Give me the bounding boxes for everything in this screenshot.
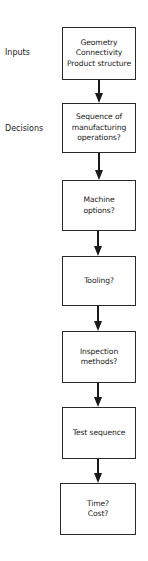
step-box-tooling: Tooling? bbox=[62, 256, 136, 306]
label-decisions: Decisions bbox=[5, 124, 43, 134]
step-text: Geometry Connectivity Product structure bbox=[67, 38, 131, 70]
arrow-down-icon bbox=[94, 383, 102, 407]
step-box-sequence: Sequence of manufacturing operations? bbox=[62, 103, 136, 153]
step-text: Sequence of manufacturing operations? bbox=[72, 112, 127, 144]
arrow-down-icon bbox=[94, 459, 102, 483]
step-box-time-cost: Time? Cost? bbox=[60, 483, 136, 535]
arrow-down-icon bbox=[94, 306, 102, 331]
arrow-down-icon bbox=[95, 153, 103, 180]
arrow-down-icon bbox=[94, 231, 102, 256]
step-text: Machine options? bbox=[83, 195, 114, 216]
step-box-machine-options: Machine options? bbox=[62, 180, 136, 231]
arrow-down-icon bbox=[95, 80, 103, 103]
step-text: Inspection methods? bbox=[80, 347, 118, 368]
step-text: Time? Cost? bbox=[87, 499, 109, 520]
step-box-geometry: Geometry Connectivity Product structure bbox=[62, 27, 136, 80]
label-inputs: Inputs bbox=[5, 48, 30, 58]
step-box-test-sequence: Test sequence bbox=[62, 407, 136, 459]
step-box-inspection: Inspection methods? bbox=[62, 331, 136, 383]
step-text: Test sequence bbox=[73, 428, 126, 439]
step-text: Tooling? bbox=[84, 276, 114, 287]
